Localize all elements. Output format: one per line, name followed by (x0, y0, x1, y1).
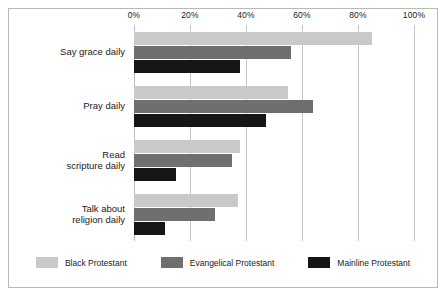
legend-swatch-icon (308, 257, 330, 268)
legend-item[interactable]: Black Protestant (36, 257, 127, 268)
legend-label: Black Protestant (65, 258, 127, 268)
chart-legend: Black ProtestantEvangelical ProtestantMa… (9, 257, 437, 268)
category-label: Pray daily (5, 100, 125, 112)
x-tick-label-40: 40% (237, 10, 255, 20)
bar-group: Read scripture daily (134, 133, 414, 187)
bar-mainline-protestant (134, 60, 240, 73)
bar-group: Pray daily (134, 79, 414, 133)
legend-label: Mainline Protestant (337, 258, 410, 268)
category-label: Talk about religion daily (5, 203, 125, 226)
x-tick-label-100: 100% (403, 10, 426, 20)
x-tick-label-0: 0% (128, 10, 141, 20)
bar-black-protestant (134, 86, 288, 99)
legend-item[interactable]: Evangelical Protestant (161, 257, 275, 268)
gridline-100 (414, 25, 415, 241)
bar-group: Say grace daily (134, 25, 414, 79)
bar-black-protestant (134, 140, 240, 153)
bar-group: Talk about religion daily (134, 187, 414, 241)
legend-label: Evangelical Protestant (190, 258, 275, 268)
bar-black-protestant (134, 194, 238, 207)
bar-mainline-protestant (134, 114, 266, 127)
bar-mainline-protestant (134, 168, 176, 181)
category-label: Say grace daily (5, 46, 125, 58)
x-tick-label-60: 60% (293, 10, 311, 20)
x-tick-label-80: 80% (349, 10, 367, 20)
bar-evangelical-protestant (134, 100, 313, 113)
bar-mainline-protestant (134, 222, 165, 235)
legend-swatch-icon (36, 257, 58, 268)
bar-evangelical-protestant (134, 46, 291, 59)
bar-evangelical-protestant (134, 154, 232, 167)
legend-item[interactable]: Mainline Protestant (308, 257, 410, 268)
chart-figure: 0%20%40%60%80%100% Say grace dailyPray d… (8, 8, 438, 288)
category-label: Read scripture daily (5, 149, 125, 172)
x-tick-label-20: 20% (181, 10, 199, 20)
legend-swatch-icon (161, 257, 183, 268)
plot-area: 0%20%40%60%80%100% Say grace dailyPray d… (134, 25, 414, 241)
bar-evangelical-protestant (134, 208, 215, 221)
bar-black-protestant (134, 32, 372, 45)
